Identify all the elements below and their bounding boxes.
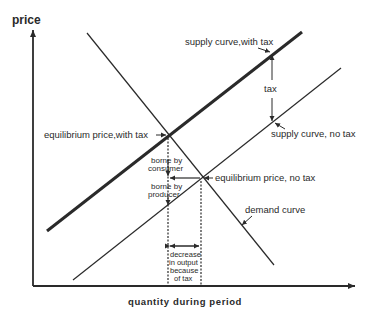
demand-curve-label: demand curve: [245, 204, 305, 215]
borne-by-consumer-line2: consumer: [148, 164, 183, 173]
decrease-line4: of tax: [174, 274, 193, 283]
x-axis-label: quantity during period: [128, 296, 242, 307]
supply-with-tax-pointer: [258, 48, 270, 52]
equilibrium-with-tax-label: equilibrium price,with tax: [44, 129, 148, 140]
borne-by-producer-line2: producer: [148, 190, 180, 199]
tax-label: tax: [264, 83, 277, 94]
demand-curve: [87, 33, 274, 265]
tax-incidence-diagram: price quantity during period tax supply …: [0, 0, 371, 313]
equilibrium-no-tax-label: equilibrium price, no tax: [215, 172, 316, 183]
y-axis-label: price: [12, 13, 41, 27]
supply-no-tax-label: supply curve, no tax: [271, 128, 356, 139]
demand-curve-pointer: [242, 216, 252, 225]
supply-with-tax-label: supply curve,with tax: [185, 36, 273, 47]
